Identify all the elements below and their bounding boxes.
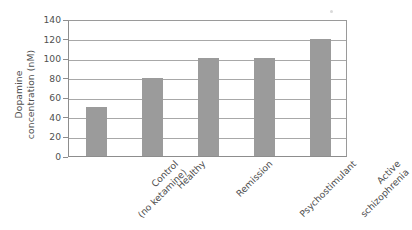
bar-series [69,21,346,156]
y-axis-title-line-1: Dopamine [14,49,26,138]
y-axis-tick-label: 140 [35,15,61,24]
scan-artifact-speck [330,10,333,13]
x-axis-tick-label-line: Remission [233,158,275,200]
y-axis-tick-label: 0 [35,152,61,161]
y-axis-tick-label: 40 [35,113,61,122]
bar [142,78,163,156]
y-axis-tick-label: 20 [35,132,61,141]
x-axis-tick-label-line: Psychostimulant [297,158,359,220]
y-axis-tick-label: 60 [35,93,61,102]
y-axis-tick-mark [63,98,68,99]
y-axis-tick-mark [63,157,68,158]
x-axis-tick-labels: Control(no ketamine)HealthyRemissionPsyc… [68,158,347,230]
bar [198,58,219,156]
y-axis-tick-labels: 020406080100120140 [35,20,61,157]
y-axis-tick-label: 120 [35,35,61,44]
y-axis-tick-mark [63,59,68,60]
y-axis-tick-mark [63,117,68,118]
y-axis-tick-label: 100 [35,54,61,63]
bar [310,39,331,156]
y-axis-tick-mark [63,20,68,21]
y-axis-tick-mark [63,137,68,138]
bar [254,58,275,156]
y-axis-tick-label: 80 [35,74,61,83]
y-axis-tick-mark [63,39,68,40]
plot-area [68,20,347,157]
y-axis-tick-mark [63,78,68,79]
bar [86,107,107,156]
